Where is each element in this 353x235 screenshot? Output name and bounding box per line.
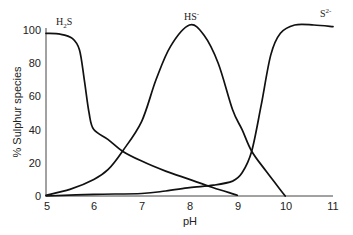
curve-h2s: [46, 33, 237, 195]
y-tick-80: 80: [29, 57, 41, 69]
label-hs-minus: HS-: [184, 10, 200, 22]
x-tick-5: 5: [44, 200, 50, 212]
x-tick-labels: 5 6 7 8 9 10 11: [44, 200, 339, 212]
y-tick-0: 0: [35, 190, 41, 202]
x-tick-11: 11: [327, 200, 338, 212]
y-tick-60: 60: [29, 90, 41, 102]
x-tick-8: 8: [187, 200, 193, 212]
x-axis-title: pH: [183, 215, 197, 227]
x-tick-7: 7: [139, 200, 145, 212]
y-tick-labels: 0 20 40 60 80 100: [23, 24, 41, 202]
y-tick-100: 100: [23, 24, 41, 36]
y-tick-40: 40: [29, 124, 41, 136]
y-tick-20: 20: [29, 157, 41, 169]
speciation-chart: 0 20 40 60 80 100 5 6 7 8 9 10 11 pH % S…: [0, 0, 353, 235]
x-tick-10: 10: [280, 200, 292, 212]
x-tick-6: 6: [91, 200, 97, 212]
label-h2s: H2S: [56, 16, 72, 30]
label-s2-minus: S2-: [320, 7, 332, 19]
y-axis-title: % Sulphur species: [11, 66, 23, 158]
x-tick-9: 9: [235, 200, 241, 212]
